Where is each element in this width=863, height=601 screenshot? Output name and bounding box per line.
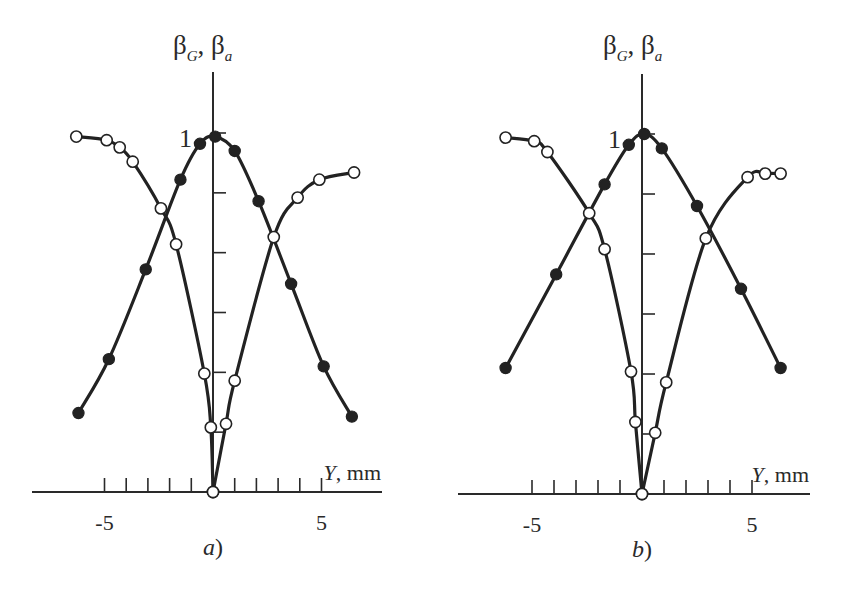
x-tick-label: -5 bbox=[95, 510, 113, 535]
panel-a: -551βG, βaY, mma) bbox=[32, 30, 382, 560]
data-point-filled bbox=[500, 362, 511, 373]
data-point-filled bbox=[286, 278, 297, 289]
data-point-filled bbox=[140, 264, 151, 275]
y-axis-label: βG, βa bbox=[173, 30, 232, 64]
series-line-2 bbox=[76, 137, 213, 492]
data-point-open bbox=[207, 486, 218, 497]
series-line-3 bbox=[642, 171, 781, 494]
data-point-open bbox=[630, 416, 641, 427]
data-point-open bbox=[199, 368, 210, 379]
x-axis-label: Y, mm bbox=[324, 460, 381, 485]
data-point-open bbox=[760, 168, 771, 179]
data-point-open bbox=[650, 427, 661, 438]
panel-label: b) bbox=[632, 536, 652, 562]
data-point-open bbox=[661, 377, 672, 388]
data-point-filled bbox=[639, 128, 650, 139]
data-point-filled bbox=[73, 407, 84, 418]
data-point-open bbox=[599, 244, 610, 255]
panel-b: -551βG, βaY, mmb) bbox=[458, 30, 810, 562]
data-point-open bbox=[155, 203, 166, 214]
data-point-filled bbox=[623, 139, 634, 150]
data-point-filled bbox=[735, 283, 746, 294]
series-line-3 bbox=[213, 173, 354, 493]
data-point-filled bbox=[229, 145, 240, 156]
panel-label: a) bbox=[203, 534, 223, 560]
data-point-open bbox=[292, 192, 303, 203]
data-point-open bbox=[127, 156, 138, 167]
data-point-open bbox=[348, 167, 359, 178]
data-point-open bbox=[700, 233, 711, 244]
y-tick-label: 1 bbox=[179, 124, 192, 153]
data-point-open bbox=[775, 168, 786, 179]
data-point-filled bbox=[691, 200, 702, 211]
x-tick-label: -5 bbox=[523, 512, 541, 537]
data-point-open bbox=[171, 239, 182, 250]
data-point-open bbox=[636, 488, 647, 499]
data-point-filled bbox=[253, 196, 264, 207]
data-point-filled bbox=[599, 179, 610, 190]
series-line-1 bbox=[506, 134, 781, 368]
data-point-filled bbox=[175, 174, 186, 185]
figure: -551βG, βaY, mma)-551βG, βaY, mmb) bbox=[0, 0, 863, 601]
data-point-filled bbox=[210, 131, 221, 142]
data-point-open bbox=[314, 174, 325, 185]
data-point-filled bbox=[775, 362, 786, 373]
data-point-filled bbox=[103, 354, 114, 365]
data-point-open bbox=[742, 172, 753, 183]
data-point-open bbox=[529, 136, 540, 147]
data-point-filled bbox=[551, 269, 562, 280]
data-point-open bbox=[542, 146, 553, 157]
data-point-open bbox=[220, 418, 231, 429]
data-point-open bbox=[500, 132, 511, 143]
series-line-1 bbox=[79, 136, 352, 416]
data-point-open bbox=[205, 422, 216, 433]
data-point-open bbox=[625, 366, 636, 377]
series-line-2 bbox=[506, 138, 642, 494]
data-point-open bbox=[114, 142, 125, 153]
y-tick-label: 1 bbox=[608, 125, 621, 154]
data-point-open bbox=[584, 208, 595, 219]
y-axis-label: βG, βa bbox=[603, 30, 662, 64]
x-tick-label: 5 bbox=[316, 510, 327, 535]
data-point-open bbox=[229, 375, 240, 386]
data-point-filled bbox=[194, 138, 205, 149]
data-point-filled bbox=[346, 411, 357, 422]
data-point-filled bbox=[656, 143, 667, 154]
x-tick-label: 5 bbox=[747, 512, 758, 537]
data-point-open bbox=[268, 232, 279, 243]
data-point-open bbox=[101, 135, 112, 146]
data-point-open bbox=[71, 131, 82, 142]
data-point-filled bbox=[318, 361, 329, 372]
x-axis-label: Y, mm bbox=[752, 462, 809, 487]
